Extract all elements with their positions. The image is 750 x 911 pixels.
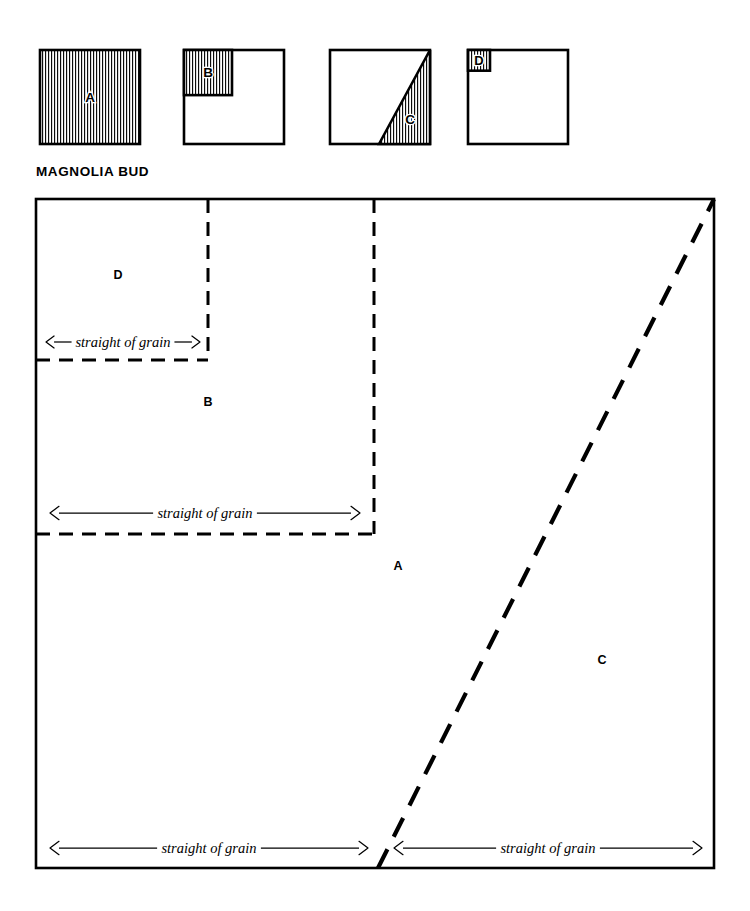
piece-label-a: A — [393, 559, 402, 573]
cutting-layout: straight of grainstraight of grainstraig… — [0, 0, 750, 911]
cutting-layout-graphic: straight of grainstraight of grainstraig… — [0, 0, 750, 911]
pattern-layout-page: ABCD MAGNOLIA BUD straight of grainstrai… — [0, 0, 750, 911]
piece-label-d: D — [113, 268, 122, 282]
grain-label: straight of grain — [161, 840, 256, 856]
piece-label-c: C — [597, 653, 606, 667]
grain-label: straight of grain — [157, 505, 252, 521]
grain-label: straight of grain — [500, 840, 595, 856]
piece-label-b: B — [203, 395, 212, 409]
grain-label: straight of grain — [75, 334, 170, 350]
